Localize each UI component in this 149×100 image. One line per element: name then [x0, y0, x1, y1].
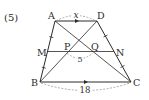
measure-BC-label: 18 [80, 85, 91, 95]
label-B: B [31, 77, 38, 88]
label-N: N [116, 47, 124, 58]
measure-PQ-label: 5 [77, 55, 82, 64]
label-P: P [64, 41, 71, 52]
problem-number: (5) [4, 12, 18, 23]
label-D: D [97, 10, 105, 21]
arrow-mark-BC-icon [84, 80, 88, 84]
label-A: A [47, 10, 55, 21]
label-M: M [37, 47, 47, 58]
label-Q: Q [91, 41, 99, 52]
measure-AD-label: x [73, 10, 78, 20]
trapezoid-diagram: (5) [0, 0, 149, 100]
label-C: C [133, 77, 140, 88]
tick-AM-icon [49, 37, 53, 38]
tick-MB-icon [42, 67, 46, 68]
diagram-canvas: (5) [0, 0, 149, 100]
